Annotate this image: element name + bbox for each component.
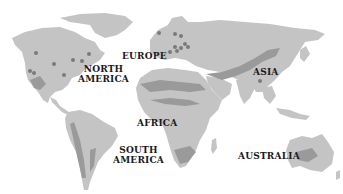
location-marker <box>179 34 183 38</box>
location-marker <box>186 45 190 49</box>
location-marker <box>52 62 56 66</box>
indonesia <box>276 108 310 120</box>
india <box>236 80 256 104</box>
new-zealand <box>336 170 340 180</box>
label-australia: AUSTRALIA <box>238 151 300 161</box>
label-south-america: SOUTH AMERICA <box>113 145 164 165</box>
location-marker <box>168 50 172 54</box>
location-marker <box>71 58 75 62</box>
location-marker <box>32 71 36 75</box>
central-america <box>50 97 70 115</box>
southeast-asia <box>262 86 276 104</box>
location-marker <box>87 52 91 56</box>
location-marker <box>62 73 66 77</box>
world-map <box>0 0 343 194</box>
madagascar <box>211 138 217 154</box>
location-marker <box>157 31 161 35</box>
label-north-america: NORTH AMERICA <box>78 64 129 84</box>
location-marker <box>258 79 262 83</box>
label-asia: ASIA <box>253 67 278 77</box>
location-marker <box>179 46 183 50</box>
location-marker <box>80 59 84 63</box>
location-marker <box>183 42 187 46</box>
location-marker <box>175 49 179 53</box>
location-marker <box>34 51 38 55</box>
location-marker <box>28 69 32 73</box>
location-marker <box>173 45 177 49</box>
label-africa: AFRICA <box>137 118 177 128</box>
label-europe: EUROPE <box>122 51 167 61</box>
japan <box>300 46 310 62</box>
location-marker <box>173 32 177 36</box>
